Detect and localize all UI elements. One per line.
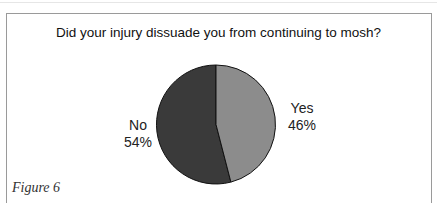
slice-label-no: No 54%: [120, 117, 156, 151]
slice-label-yes-percent: 46%: [282, 117, 322, 134]
slice-label-yes-name: Yes: [282, 100, 322, 117]
figure-caption: Figure 6: [12, 180, 60, 196]
pie-chart: [0, 0, 437, 203]
slice-label-yes: Yes 46%: [282, 100, 322, 134]
slice-label-no-name: No: [120, 117, 156, 134]
slice-label-no-percent: 54%: [120, 134, 156, 151]
